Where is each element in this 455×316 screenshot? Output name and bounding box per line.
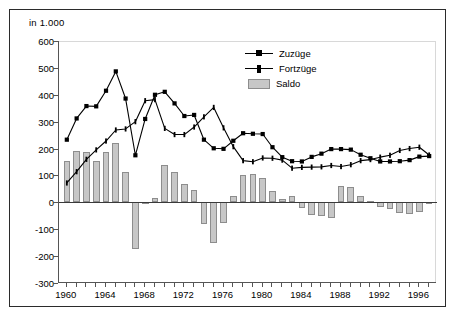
data-point-marker (262, 155, 264, 160)
data-point-marker (418, 145, 420, 150)
data-point-marker (192, 113, 196, 117)
data-point-marker (125, 126, 127, 131)
y-axis-tick-label: 500 (38, 62, 54, 73)
x-axis-tick-mark (125, 283, 126, 287)
y-axis-tick-label: 600 (38, 36, 54, 47)
x-axis-tick-mark (340, 283, 341, 287)
y-axis-tick-label: 300 (38, 116, 54, 127)
x-axis-tick-mark (311, 283, 312, 287)
x-axis-tick-label: 1988 (329, 289, 350, 300)
data-point-marker (389, 153, 391, 158)
x-axis-tick-label: 1984 (290, 289, 311, 300)
data-point-marker (75, 116, 79, 120)
data-point-marker (388, 159, 392, 163)
data-point-marker (223, 125, 225, 130)
x-axis-tick-mark (105, 283, 106, 287)
data-point-marker (182, 114, 186, 118)
data-point-marker (232, 144, 234, 149)
data-point-marker (379, 155, 381, 160)
data-point-marker (272, 156, 274, 161)
data-point-marker (231, 139, 235, 143)
x-axis-tick-mark (223, 283, 224, 287)
x-axis-tick-label: 1992 (369, 289, 390, 300)
legend-marker-zuzuege-icon (245, 48, 273, 59)
data-point-marker (76, 169, 78, 174)
legend-item-zuzuege: Zuzüge (245, 47, 341, 60)
legend-label-zuzuege: Zuzüge (279, 48, 311, 59)
legend-item-fortzuege: Fortzüge (245, 62, 341, 75)
y-axis-tick-label: -200 (35, 251, 54, 262)
x-axis-tick-mark (164, 283, 165, 287)
x-axis-tick-mark (360, 283, 361, 287)
y-axis-tick-label: 100 (38, 170, 54, 181)
x-axis-tick-label: 1960 (55, 289, 76, 300)
x-axis-tick-mark (203, 283, 204, 287)
data-point-marker (65, 138, 69, 142)
data-point-marker (133, 153, 137, 157)
data-point-marker (281, 158, 283, 163)
data-point-marker (212, 146, 216, 150)
y-axis-unit-label: in 1.000 (29, 17, 64, 28)
x-axis-tick-mark (242, 283, 243, 287)
data-point-marker (319, 152, 323, 156)
x-axis-tick-label: 1964 (94, 289, 115, 300)
data-point-marker (154, 97, 156, 102)
x-axis-tick-mark (330, 283, 331, 287)
data-point-marker (300, 159, 304, 163)
x-axis-tick-mark (174, 283, 175, 287)
data-point-marker (398, 159, 402, 163)
legend-marker-saldo-icon (248, 79, 270, 89)
legend-label-fortzuege: Fortzüge (279, 63, 317, 74)
x-axis-tick-mark (66, 283, 67, 287)
data-point-marker (202, 138, 206, 142)
data-point-marker (144, 98, 146, 103)
x-axis-tick-mark (428, 283, 429, 287)
data-point-marker (104, 89, 108, 93)
x-axis-tick-mark (369, 283, 370, 287)
data-point-marker (252, 159, 254, 164)
data-point-marker (270, 145, 274, 149)
x-axis-tick-mark (232, 283, 233, 287)
x-axis-tick-label: 1996 (408, 289, 429, 300)
x-axis-tick-mark (281, 283, 282, 287)
data-point-marker (134, 119, 136, 124)
y-axis-tick-mark (53, 283, 58, 284)
data-point-marker (164, 126, 166, 131)
x-axis-tick-mark (350, 283, 351, 287)
data-point-marker (95, 147, 97, 152)
data-point-marker (407, 158, 411, 162)
data-point-marker (242, 158, 244, 163)
x-axis-tick-mark (271, 283, 272, 287)
x-axis-tick-mark (291, 283, 292, 287)
data-point-marker (174, 132, 176, 137)
chart-figure: in 1.000 6005004003002001000-100-200-300… (0, 0, 455, 316)
x-axis-tick-mark (409, 283, 410, 287)
data-point-marker (241, 131, 245, 135)
x-axis-tick-mark (379, 283, 380, 287)
x-axis-tick-mark (399, 283, 400, 287)
y-axis-tick-label: -100 (35, 224, 54, 235)
x-axis-tick-label: 1976 (212, 289, 233, 300)
x-axis-tick-mark (95, 283, 96, 287)
legend-item-saldo: Saldo (245, 77, 341, 90)
y-axis-tick-label: 200 (38, 143, 54, 154)
x-axis-tick-mark (262, 283, 263, 287)
data-point-marker (360, 158, 362, 163)
data-point-marker (290, 159, 294, 163)
data-point-marker (193, 124, 195, 129)
x-axis-tick-mark (320, 283, 321, 287)
data-point-marker (311, 165, 313, 170)
x-axis-tick-mark (154, 283, 155, 287)
legend-label-saldo: Saldo (276, 78, 300, 89)
data-point-marker (94, 104, 98, 108)
data-point-marker (251, 132, 255, 136)
data-point-marker (143, 117, 147, 121)
data-point-marker (321, 164, 323, 169)
data-point-marker (172, 101, 176, 105)
data-point-marker (399, 148, 401, 153)
data-point-marker (66, 180, 68, 185)
data-point-marker (221, 147, 225, 151)
data-point-marker (123, 96, 127, 100)
data-point-marker (350, 162, 352, 167)
data-point-marker (261, 132, 265, 136)
